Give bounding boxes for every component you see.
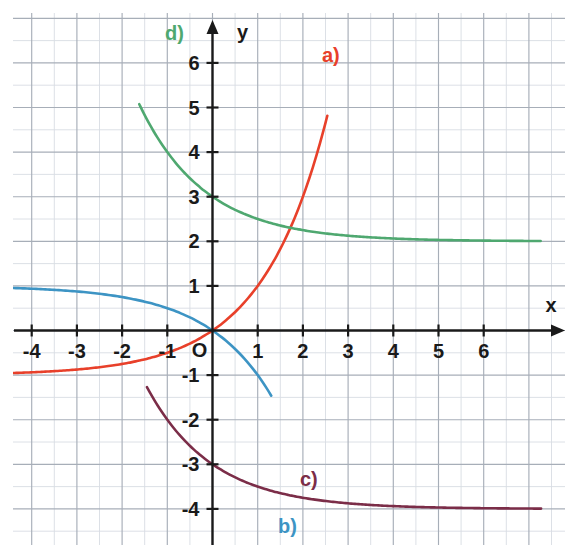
curve-d — [139, 104, 540, 241]
grid-major — [13, 13, 565, 545]
curve-label-d: d) — [165, 22, 184, 45]
axes-layer — [14, 20, 565, 545]
x-tick-label--3: -3 — [68, 340, 86, 362]
curves-layer — [0, 104, 541, 508]
plot-canvas: -4-3-2-1123456654321-1-2-3-4Oyx — [0, 0, 577, 550]
y-axis-arrowhead — [207, 20, 219, 34]
y-tick-label-1: 1 — [188, 275, 199, 297]
curve-label-b: b) — [278, 515, 297, 538]
x-tick-label-2: 2 — [297, 340, 308, 362]
x-tick-label--2: -2 — [113, 340, 131, 362]
curve-a — [0, 116, 327, 374]
y-tick-label--3: -3 — [182, 453, 200, 475]
x-tick-label-4: 4 — [388, 340, 400, 362]
y-tick-label-3: 3 — [188, 186, 199, 208]
grid-minor — [13, 13, 565, 545]
y-tick-label-5: 5 — [188, 97, 199, 119]
origin-label: O — [192, 339, 208, 361]
x-tick-label--1: -1 — [158, 340, 176, 362]
curve-label-c: c) — [300, 468, 318, 491]
y-axis-label: y — [237, 21, 249, 43]
y-tick-label-4: 4 — [188, 141, 200, 163]
x-tick-label--4: -4 — [23, 340, 42, 362]
x-axis-label: x — [545, 294, 556, 316]
tick-labels: -4-3-2-1123456654321-1-2-3-4Oyx — [23, 21, 557, 520]
x-tick-label-6: 6 — [478, 340, 489, 362]
x-tick-label-5: 5 — [433, 340, 444, 362]
x-axis-arrowhead — [551, 325, 565, 337]
x-tick-label-1: 1 — [252, 340, 263, 362]
curve-b — [0, 287, 271, 395]
y-tick-label-2: 2 — [188, 230, 199, 252]
y-tick-label--2: -2 — [182, 409, 200, 431]
y-tick-label--4: -4 — [182, 498, 201, 520]
curve-label-a: a) — [322, 44, 340, 67]
curve-c — [147, 387, 541, 509]
y-tick-label-6: 6 — [188, 52, 199, 74]
exponential-graph-figure: -4-3-2-1123456654321-1-2-3-4Oyx a)b)c)d) — [0, 0, 577, 550]
x-tick-label-3: 3 — [343, 340, 354, 362]
y-tick-label--1: -1 — [182, 364, 200, 386]
